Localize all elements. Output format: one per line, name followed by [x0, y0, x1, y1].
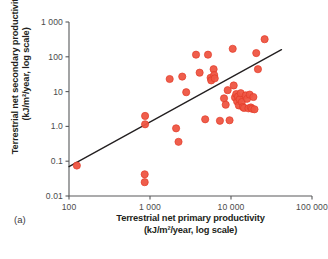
data-point	[73, 162, 80, 169]
data-point	[196, 69, 203, 76]
data-point	[229, 45, 236, 52]
axis-frame	[69, 22, 312, 196]
data-point	[142, 121, 149, 128]
data-point	[254, 66, 261, 73]
data-point	[141, 179, 148, 186]
data-point	[142, 112, 149, 119]
data-point	[192, 51, 199, 58]
data-point	[251, 106, 258, 113]
data-point	[175, 138, 182, 145]
data-point	[211, 75, 218, 82]
data-point	[172, 125, 179, 132]
data-point	[222, 101, 229, 108]
data-point	[224, 87, 231, 94]
data-point	[226, 117, 233, 124]
data-point	[204, 51, 211, 58]
data-point	[166, 75, 173, 82]
tick-marks	[66, 22, 313, 200]
data-point	[253, 49, 260, 56]
data-point	[230, 82, 237, 89]
data-point	[183, 89, 190, 96]
data-point	[202, 116, 209, 123]
data-point	[250, 93, 257, 100]
data-point	[179, 73, 186, 80]
data-point	[261, 36, 268, 43]
data-point	[141, 171, 148, 178]
data-point	[216, 117, 223, 124]
